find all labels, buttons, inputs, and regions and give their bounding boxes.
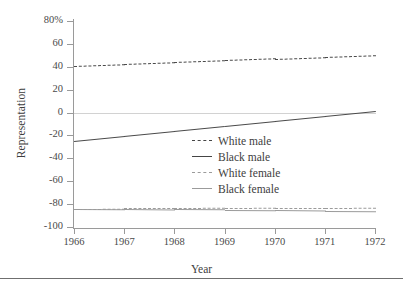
legend-item: Black male <box>192 149 280 164</box>
y-axis-tick <box>67 227 74 228</box>
x-axis-tick-label: 1967 <box>101 236 147 247</box>
series-line-segment <box>124 62 175 65</box>
series-line-segment <box>325 208 376 209</box>
series-line-segment <box>275 116 326 122</box>
y-axis-tick <box>67 158 74 159</box>
series-line-segment <box>224 210 275 211</box>
y-axis-title: Representation <box>15 58 27 188</box>
legend-item-label: Black female <box>218 183 279 195</box>
legend-item: Black female <box>192 181 280 196</box>
series-line-segment <box>225 59 276 62</box>
legend-item-label: Black male <box>218 151 270 163</box>
series-line-segment <box>325 211 376 212</box>
y-axis-tick-label: 40 <box>0 61 63 72</box>
y-axis-tick <box>67 135 74 136</box>
x-axis-title: Year <box>0 263 403 275</box>
x-axis-tick <box>174 228 175 234</box>
series-line-segment <box>74 136 125 142</box>
y-axis-tick <box>67 204 74 205</box>
x-axis-tick-label: 1970 <box>252 236 298 247</box>
x-axis-tick-label: 1968 <box>151 236 197 247</box>
legend-swatch-icon <box>192 188 212 189</box>
legend-swatch-icon <box>192 172 212 173</box>
x-axis-tick <box>74 228 75 234</box>
x-axis-tick-label: 1969 <box>202 236 248 247</box>
series-line-segment <box>275 57 326 60</box>
legend-item-label: White female <box>218 167 280 179</box>
zero-reference-line <box>74 113 376 115</box>
y-axis-tick <box>67 67 74 68</box>
series-line-segment <box>225 121 276 127</box>
y-axis-tick-label: -100 <box>0 221 63 232</box>
y-axis-tick-label: -20 <box>0 129 63 140</box>
y-axis-tick <box>67 113 74 114</box>
series-line-segment <box>174 126 225 132</box>
x-axis-tick-label: 1966 <box>51 236 97 247</box>
series-line-segment <box>275 208 326 209</box>
y-axis-tick <box>67 21 74 22</box>
y-axis-tick-label: 60 <box>0 38 63 49</box>
bottom-divider <box>0 278 403 279</box>
y-axis-tick-label: -60 <box>0 175 63 186</box>
x-axis-tick <box>325 228 326 234</box>
legend-item: White male <box>192 133 280 148</box>
y-axis-tick-label: 20 <box>0 84 63 95</box>
x-axis-tick <box>225 228 226 234</box>
series-line-segment <box>124 209 175 210</box>
y-axis-tick-label: 0 <box>0 107 63 118</box>
legend-item: White female <box>192 165 280 180</box>
series-line-segment <box>174 60 225 63</box>
series-line-segment <box>74 209 125 210</box>
y-axis-tick <box>67 90 74 91</box>
series-line-segment <box>275 210 326 211</box>
series-line-segment <box>74 64 125 67</box>
y-axis-tick <box>67 181 74 182</box>
x-axis-tick <box>275 228 276 234</box>
y-axis-tick-label: -40 <box>0 152 63 163</box>
series-line-segment <box>225 208 276 209</box>
chart-legend: White maleBlack maleWhite femaleBlack fe… <box>192 133 280 197</box>
y-axis-tick-label: -80 <box>0 198 63 209</box>
figure-chart: Representation Year 80%6040200-20-40-60-… <box>0 0 403 290</box>
legend-item-label: White male <box>218 135 271 147</box>
series-line-segment <box>174 209 225 210</box>
x-axis-tick-label: 1972 <box>352 236 398 247</box>
y-axis-tick-label: 80% <box>0 15 63 26</box>
series-line-segment <box>124 131 175 137</box>
series-line-segment <box>325 55 376 58</box>
legend-swatch-icon <box>192 156 212 157</box>
x-axis-tick <box>124 228 125 234</box>
y-axis-tick <box>67 44 74 45</box>
legend-swatch-icon <box>192 140 212 141</box>
x-axis-tick-label: 1971 <box>302 236 348 247</box>
x-axis-tick <box>375 228 376 234</box>
